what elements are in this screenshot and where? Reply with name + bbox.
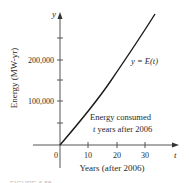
origin-label: 0 xyxy=(54,151,58,160)
note-line-2: t years after 2006 xyxy=(93,124,152,134)
x-axis-arrow-icon xyxy=(172,143,179,148)
y-axis-arrow-icon xyxy=(58,12,63,19)
x-var-label: t xyxy=(174,150,177,160)
energy-chart: y t 200,000 100,000 0 10 20 30 Energy (M… xyxy=(0,0,189,183)
note-line-1: Energy consumed xyxy=(90,112,152,122)
xtick-label-30: 30 xyxy=(141,151,149,160)
figure-caption: FIGURE 6.55 xyxy=(10,180,52,183)
xtick-label-20: 20 xyxy=(113,151,121,160)
note-rest: years after 2006 xyxy=(95,124,152,134)
ytick-label-200000: 200,000 xyxy=(28,56,54,65)
curve-label: y = E(t) xyxy=(130,56,158,66)
y-var-label: y xyxy=(51,9,56,19)
ytick-label-100000: 100,000 xyxy=(28,97,54,106)
xtick-label-10: 10 xyxy=(84,151,92,160)
x-axis-title: Years (after 2006) xyxy=(79,163,144,173)
y-axis-title: Energy (MW-yr) xyxy=(9,48,19,109)
